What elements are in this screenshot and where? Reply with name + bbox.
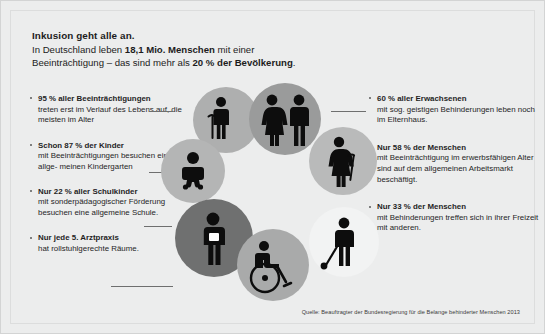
fact-headline: Nur 58 % der Menschen xyxy=(377,143,539,154)
bullet-dot-icon xyxy=(30,237,32,239)
bubble-person-wheelchair xyxy=(237,229,309,301)
headline-line-3-pre: Beeinträchtigung – das sind mehr als xyxy=(32,57,193,68)
bullet-dot-icon xyxy=(30,144,32,146)
headline-line-3-post: . xyxy=(293,57,296,68)
fact-body: mit Beeinträchtigung im erwerbsfähigen A… xyxy=(377,153,539,185)
headline-line-2-emphasis: 18,1 Mio. Menschen xyxy=(125,44,215,55)
fact-item: Nur 33 % der Menschen mit Behinderungen … xyxy=(369,202,539,234)
bubble-woman-with-cane xyxy=(309,127,377,195)
headline-line-2-pre: In Deutschland leben xyxy=(32,44,125,55)
headline-line-2: In Deutschland leben 18,1 Mio. Menschen … xyxy=(32,43,372,57)
headline-main: Inkusion geht alle an. xyxy=(32,29,372,43)
leader-line-left-3 xyxy=(144,226,172,227)
infographic-poster: Inkusion geht alle an. In Deutschland le… xyxy=(0,0,545,334)
facts-column-right: 60 % aller Erwachsenen mit sog. geistige… xyxy=(369,94,539,246)
fact-body: mit Behinderungen treffen sich in ihrer … xyxy=(377,213,539,234)
woman-with-cane-icon xyxy=(329,137,355,187)
headline-line-3: Beeinträchtigung – das sind mehr als 20 … xyxy=(32,56,372,70)
bullet-dot-icon xyxy=(30,97,32,99)
couple-standing-icon xyxy=(262,95,310,146)
fact-item: Nur 58 % der Menschen mit Beeinträchtigu… xyxy=(369,143,539,185)
baby-infant-icon xyxy=(182,152,204,190)
source-attribution: Quelle: Beauftragter der Bundesregierung… xyxy=(302,309,520,315)
bullet-dot-icon xyxy=(30,190,32,192)
person-wheelchair-icon xyxy=(251,241,291,292)
leader-line-left-4 xyxy=(111,286,173,287)
headline-line-2-post: mit einer xyxy=(215,44,254,55)
page-title: Inkusion geht alle an. In Deutschland le… xyxy=(32,29,372,70)
fact-headline: 60 % aller Erwachsenen xyxy=(377,94,539,105)
bubble-person-blind-cane xyxy=(309,207,379,277)
headline-line-3-emphasis: 20 % der Bevölkerung xyxy=(193,57,293,68)
person-blind-cane-icon xyxy=(321,218,354,270)
illustration-circle-cluster xyxy=(169,79,385,305)
elderly-with-cane-icon xyxy=(209,97,230,139)
bubble-baby-infant xyxy=(161,139,225,203)
fact-headline: Nur 33 % der Menschen xyxy=(377,202,539,213)
schoolchild-icon xyxy=(204,213,225,265)
fact-body: mit sog. geistigen Behinderungen leben n… xyxy=(377,105,539,126)
fact-item: 60 % aller Erwachsenen mit sog. geistige… xyxy=(369,94,539,126)
